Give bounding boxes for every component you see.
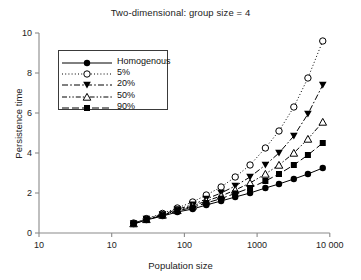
data-series-4	[130, 118, 327, 226]
data-point-marker	[247, 185, 253, 191]
legend: Homogenous5%20%50%90%	[58, 50, 168, 110]
data-point-marker	[276, 181, 282, 187]
data-point-marker	[276, 128, 282, 134]
x-axis: 1010100100010 000	[34, 233, 344, 250]
y-tick-label: 10	[22, 28, 32, 38]
data-point-marker	[232, 190, 238, 196]
figure: Two-dimensional: group size = 4 Persiste…	[0, 0, 361, 280]
data-point-marker	[320, 140, 326, 146]
data-point-marker	[218, 184, 224, 190]
legend-marker-icon	[59, 89, 115, 101]
legend-item-5: 90%	[59, 100, 169, 112]
data-point-marker	[131, 221, 137, 227]
data-point-marker	[304, 111, 312, 118]
x-tick-label: 10 000	[316, 240, 344, 250]
y-tick-label: 2	[27, 188, 32, 198]
data-point-marker	[276, 171, 282, 177]
data-point-marker	[319, 118, 327, 125]
data-point-marker	[174, 208, 180, 214]
y-tick-label: 6	[27, 108, 32, 118]
legend-item-4: 50%	[59, 89, 169, 101]
legend-item-3: 20%	[59, 77, 169, 89]
y-tick-label: 4	[27, 148, 32, 158]
data-point-marker	[305, 152, 311, 158]
data-point-marker	[262, 145, 268, 151]
data-point-marker	[247, 162, 253, 168]
data-point-marker	[291, 162, 297, 168]
x-tick-label: 10	[107, 240, 117, 250]
data-point-marker	[262, 178, 268, 184]
data-point-marker	[262, 185, 268, 191]
legend-marker-icon	[59, 77, 115, 89]
data-point-marker	[84, 105, 90, 111]
data-point-marker	[218, 196, 224, 202]
legend-label: 90%	[117, 101, 135, 111]
data-point-marker	[275, 161, 283, 168]
legend-label: 5%	[117, 67, 130, 77]
data-point-marker	[291, 176, 297, 182]
legend-marker-icon	[59, 66, 115, 78]
data-point-marker	[232, 174, 238, 180]
data-point-marker	[320, 165, 326, 171]
legend-label: 20%	[117, 78, 135, 88]
plot-area: 0246810 1010100100010 000	[0, 0, 361, 280]
data-point-marker	[319, 82, 327, 89]
data-series-5	[131, 140, 326, 227]
data-point-marker	[262, 170, 270, 177]
data-point-marker	[305, 75, 311, 81]
y-axis: 0246810	[22, 28, 39, 238]
data-point-marker	[190, 204, 196, 210]
x-tick-label: 100	[177, 240, 192, 250]
legend-item-1: Homogenous	[59, 55, 169, 67]
data-point-marker	[320, 38, 326, 44]
y-tick-label: 0	[27, 228, 32, 238]
data-point-marker	[291, 104, 297, 110]
legend-label: 50%	[117, 90, 135, 100]
legend-marker-icon	[59, 55, 115, 67]
x-tick-label: 1000	[247, 240, 267, 250]
data-point-marker	[143, 217, 149, 223]
legend-label: Homogenous	[117, 56, 171, 66]
legend-marker-icon	[59, 100, 115, 112]
data-point-marker	[305, 171, 311, 177]
x-tick-label: 10	[34, 240, 44, 250]
data-point-marker	[160, 212, 166, 218]
y-tick-label: 8	[27, 68, 32, 78]
data-point-marker	[203, 200, 209, 206]
legend-item-2: 5%	[59, 66, 169, 78]
